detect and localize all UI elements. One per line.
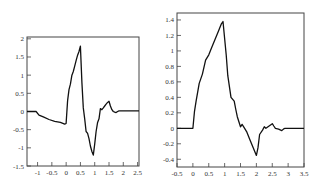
y-tick-label: 1 bbox=[171, 47, 175, 55]
y-tick-label: 1 bbox=[21, 72, 25, 80]
x-tick-label: 1.5 bbox=[105, 169, 114, 177]
x-tick-label: 0 bbox=[191, 170, 195, 178]
x-tick-label: 1.5 bbox=[236, 170, 245, 178]
y-tick-label: 1.2 bbox=[165, 32, 174, 40]
y-tick-label: 1.4 bbox=[165, 16, 174, 24]
y-tick-label: 2 bbox=[21, 35, 25, 43]
x-tick-label: 2.5 bbox=[133, 169, 142, 177]
y-tick-label: -0.5 bbox=[13, 126, 25, 134]
x-tick-label: 2 bbox=[122, 169, 126, 177]
x-tick-label: 0 bbox=[64, 169, 68, 177]
left-line-chart: -1-0.500.511.522.521.510.50-0.5-1-1.5 bbox=[13, 35, 143, 177]
x-tick-label: 2 bbox=[255, 170, 259, 178]
y-tick-label: 0 bbox=[21, 108, 25, 116]
x-tick-label: 3 bbox=[286, 170, 290, 178]
x-tick-label: 0.5 bbox=[204, 170, 213, 178]
y-tick-label: 0.8 bbox=[165, 63, 174, 71]
y-tick-label: -0.2 bbox=[163, 140, 175, 148]
y-tick-label: 0.5 bbox=[15, 90, 24, 98]
figure-canvas: -1-0.500.511.522.521.510.50-0.5-1-1.5 -0… bbox=[0, 0, 316, 191]
y-tick-label: 0.2 bbox=[165, 109, 174, 117]
y-tick-label: -1 bbox=[18, 144, 24, 152]
x-tick-label: -1 bbox=[35, 169, 41, 177]
axes-frame bbox=[177, 13, 304, 167]
x-tick-label: -0.5 bbox=[46, 169, 58, 177]
series-line bbox=[27, 46, 139, 155]
x-tick-label: 3.5 bbox=[300, 170, 309, 178]
y-tick-label: 0.6 bbox=[165, 78, 174, 86]
x-tick-label: -0.5 bbox=[171, 170, 183, 178]
x-tick-label: 0.5 bbox=[76, 169, 85, 177]
x-tick-label: 1 bbox=[223, 170, 227, 178]
series-line bbox=[177, 22, 304, 156]
x-tick-label: 2.5 bbox=[268, 170, 277, 178]
y-tick-label: 0 bbox=[171, 125, 175, 133]
x-tick-label: 1 bbox=[93, 169, 97, 177]
right-line-chart: -0.500.511.522.533.51.41.210.80.60.40.20… bbox=[163, 13, 309, 178]
y-tick-label: 1.5 bbox=[15, 53, 24, 61]
y-tick-label: -1.5 bbox=[13, 163, 25, 171]
y-tick-label: -0.4 bbox=[163, 156, 175, 164]
y-tick-label: 0.4 bbox=[165, 94, 174, 102]
